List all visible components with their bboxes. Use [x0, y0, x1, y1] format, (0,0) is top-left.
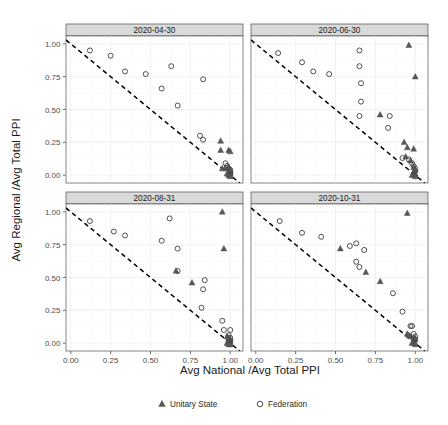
x-tick-label: 0.75 [368, 356, 384, 365]
x-tick-label: 0.50 [328, 356, 344, 365]
facet-strip-label: 2020-08-31 [134, 194, 176, 203]
y-tick-label: 1.00 [45, 208, 61, 217]
x-tick-label: 1.00 [407, 356, 423, 365]
y-tick-label: 0.50 [45, 274, 61, 283]
y-tick-label: 0.50 [45, 106, 61, 115]
facet-panel: 2020-10-31 [251, 192, 428, 351]
faceted-scatter-chart: 2020-04-302020-06-302020-08-312020-10-31… [0, 0, 448, 425]
y-tick-label: 1.00 [45, 40, 61, 49]
facet-panel: 2020-04-30 [66, 24, 243, 183]
x-tick-label: 0.25 [103, 356, 119, 365]
legend-label: Unitary State [170, 400, 218, 409]
y-tick-label: 0.75 [45, 73, 61, 82]
facet-panel: 2020-06-30 [251, 24, 428, 183]
facet-strip-label: 2020-04-30 [134, 26, 176, 35]
facet-panel: 2020-08-31 [66, 192, 243, 351]
y-tick-label: 0.25 [45, 138, 61, 147]
y-tick-label: 0.75 [45, 241, 61, 250]
y-axis-title: Avg Regional /Avg Total PPI [10, 118, 22, 261]
x-tick-label: 0.50 [143, 356, 159, 365]
y-tick-label: 0.00 [45, 339, 61, 348]
x-axis-title: Avg National /Avg Total PPI [180, 364, 320, 376]
x-tick-label: 0.00 [63, 356, 79, 365]
facet-strip-label: 2020-10-31 [319, 194, 361, 203]
y-tick-label: 0.25 [45, 306, 61, 315]
y-tick-label: 0.00 [45, 171, 61, 180]
facet-strip-label: 2020-06-30 [319, 26, 361, 35]
legend-label: Federation [268, 400, 308, 409]
